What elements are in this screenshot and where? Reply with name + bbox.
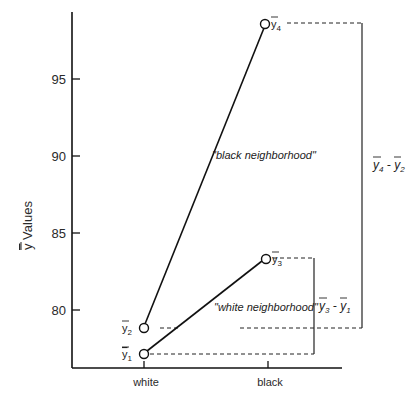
ytick-label-90: 90 xyxy=(52,149,66,164)
ytick-label-95: 95 xyxy=(52,72,66,87)
svg-text:y Values: y Values xyxy=(20,201,35,250)
point-label-y1: y1 xyxy=(122,348,133,363)
x-ticks: white black xyxy=(132,361,283,388)
bracket-label-y3-y1: y3 - y1 xyxy=(318,299,351,315)
point-y2 xyxy=(140,324,149,333)
point-y3 xyxy=(262,255,271,264)
point-label-y4: y4 xyxy=(271,18,282,33)
annotation-white-neighborhood: "white neighborhood" xyxy=(214,301,319,313)
line-black-neighborhood xyxy=(145,28,264,324)
ytick-label-80: 80 xyxy=(52,303,66,318)
point-label-y2: y2 xyxy=(122,322,133,337)
bracket-label-y4-y2: y4 - y2 xyxy=(372,158,405,174)
point-y1 xyxy=(140,350,149,359)
point-label-y3: y3 xyxy=(272,253,283,268)
y-axis-label: y Values xyxy=(20,201,35,250)
xtick-label-black: black xyxy=(257,376,283,388)
y-axis-label-rest: Values xyxy=(20,201,35,244)
annotation-black-neighborhood: "black neighborhood" xyxy=(212,149,317,161)
xtick-label-white: white xyxy=(132,376,159,388)
ytick-label-85: 85 xyxy=(52,226,66,241)
y-ticks: 95 90 85 80 xyxy=(52,72,80,318)
chart-canvas: 95 90 85 80 white black y Values y1 xyxy=(0,0,420,398)
point-y4 xyxy=(261,20,270,29)
